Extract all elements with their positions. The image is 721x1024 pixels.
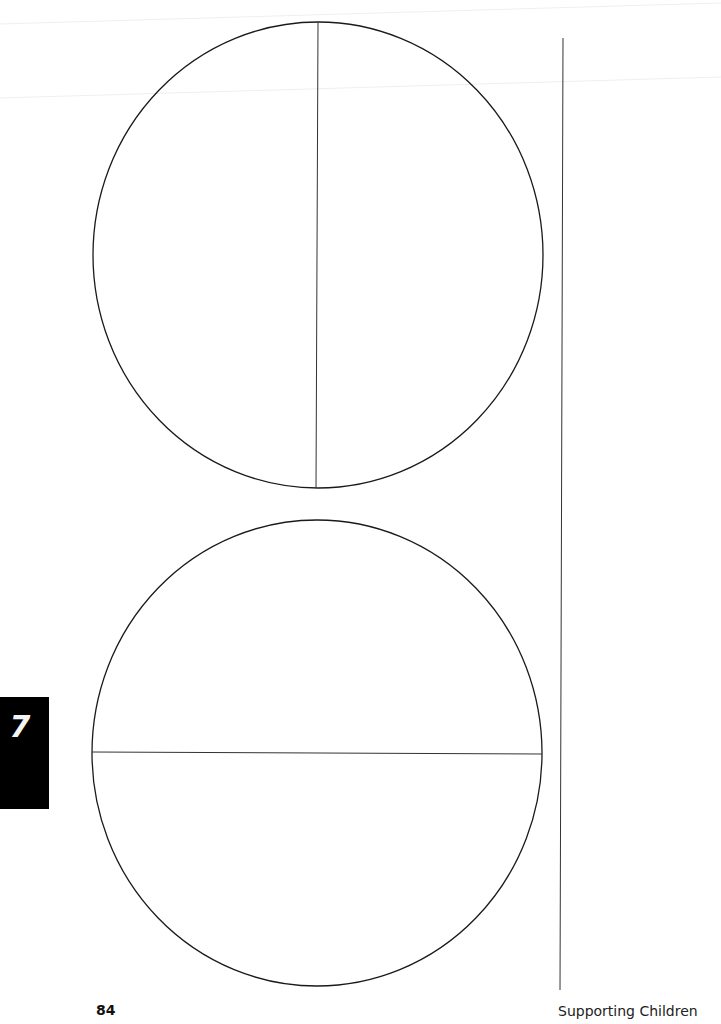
margin-rule [560, 38, 563, 990]
chapter-tab: 7 [0, 697, 49, 809]
page-number: 84 [96, 1002, 115, 1018]
worksheet-page: 7 84 Supporting Children [0, 0, 721, 1024]
bottom-circle-horizontal-divider [92, 752, 542, 754]
scan-fold-line [0, 3, 721, 24]
chapter-number: 7 [0, 709, 40, 744]
worksheet-drawing [0, 0, 721, 1024]
top-circle-vertical-divider [316, 22, 318, 488]
running-footer-title: Supporting Children [558, 1003, 698, 1019]
scan-fold-line [0, 77, 721, 98]
